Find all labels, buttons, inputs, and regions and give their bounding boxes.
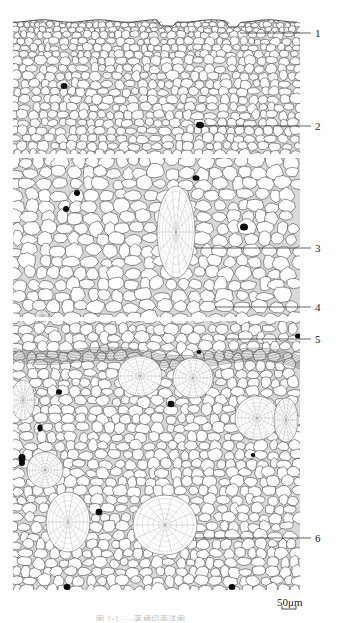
label-5: 5 <box>315 334 321 345</box>
secretory-cavity <box>96 509 103 515</box>
stem-cross-section-figure: 1 2 3 4 5 6 50μm 图 1-1 ····茎横切面详图 <box>0 0 337 623</box>
secretory-cavity <box>196 122 204 128</box>
secretory-cavity <box>37 425 42 432</box>
secretory-cavity <box>193 175 200 181</box>
secretory-cavity <box>63 206 69 212</box>
secretory-cavity <box>74 190 80 196</box>
secretory-cavity <box>168 401 175 407</box>
label-1: 1 <box>315 28 321 39</box>
figure-caption: 图 1-1 ····茎横切面详图 <box>96 613 246 621</box>
secretory-cavity <box>229 584 236 590</box>
secretory-cavity <box>19 460 25 466</box>
label-4: 4 <box>315 302 321 313</box>
label-6: 6 <box>315 533 321 544</box>
secretory-cavity <box>64 584 71 590</box>
secretory-cavity <box>61 83 68 89</box>
secretory-cavity <box>240 224 248 231</box>
secretory-cavity <box>56 389 62 395</box>
tissue-drawing <box>0 0 337 623</box>
secretory-cavity <box>251 453 255 457</box>
scale-bar-label: 50μm <box>277 596 302 608</box>
label-2: 2 <box>315 121 321 132</box>
label-3: 3 <box>315 243 321 254</box>
secretory-cavity <box>197 350 202 354</box>
